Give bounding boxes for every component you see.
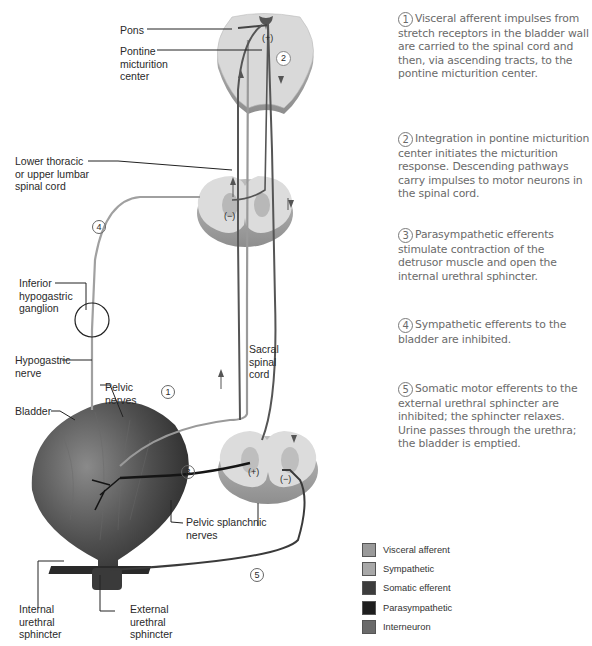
legend-item-parasympathetic: Parasympathetic — [362, 598, 452, 617]
circle-marker-4: 4 — [92, 220, 106, 234]
step-number: 4 — [398, 318, 413, 333]
legend-item-interneuron: Interneuron — [362, 617, 452, 636]
step-4: 4Sympathetic efferents to the bladder ar… — [398, 318, 590, 346]
step-text: Somatic motor efferents to the external … — [398, 382, 577, 450]
step-number: 1 — [398, 12, 413, 27]
step-2: 2Integration in pontine micturition cent… — [398, 132, 590, 200]
sympathetic-nerve — [92, 197, 200, 410]
step-text: Parasympathetic efferents stimulate cont… — [398, 228, 557, 283]
marker-minus-sacral: (−) — [280, 473, 291, 486]
step-1: 1Visceral afferent impulses from stretch… — [398, 12, 590, 80]
step-number: 3 — [398, 228, 413, 243]
circle-marker-1: 1 — [161, 385, 175, 399]
marker-minus-thoracic: (−) — [224, 210, 235, 223]
marker-plus-pons: (+) — [262, 32, 273, 45]
label-bladder: Bladder — [15, 405, 51, 418]
legend-item-sympathetic: Sympathetic — [362, 559, 452, 578]
visceral-afferent-pathway — [120, 40, 248, 466]
label-pelvic-splanchnic-nerves: Pelvic splanchnic nerves — [186, 516, 267, 541]
swatch-icon — [362, 562, 376, 576]
step-text: Sympathetic efferents to the bladder are… — [398, 318, 566, 346]
label-external-urethral-sphincter: External urethral sphincter — [130, 603, 173, 641]
swatch-icon — [362, 601, 376, 615]
label-pons: Pons — [120, 24, 144, 37]
legend: Visceral afferent Sympathetic Somatic ef… — [362, 540, 452, 636]
circle-marker-2: 2 — [276, 51, 291, 66]
label-inferior-hypogastric-ganglion: Inferior hypogastric ganglion — [19, 277, 73, 315]
swatch-icon — [362, 620, 376, 634]
bladder — [32, 401, 189, 590]
label-pontine-center: Pontine micturition center — [120, 45, 168, 83]
label-hypogastric-nerve: Hypogastric nerve — [15, 354, 70, 379]
step-3: 3Parasympathetic efferents stimulate con… — [398, 228, 590, 283]
label-pelvic-nerves: Pelvic nerves — [105, 381, 137, 406]
circle-marker-3: 3 — [181, 465, 195, 479]
legend-item-somatic-efferent: Somatic efferent — [362, 579, 452, 598]
direction-arrows — [218, 70, 297, 443]
swatch-icon — [362, 581, 376, 595]
step-number: 2 — [398, 132, 413, 147]
step-text: Visceral afferent impulses from stretch … — [398, 12, 589, 80]
label-internal-urethral-sphincter: Internal urethral sphincter — [19, 603, 62, 641]
label-sacral-cord: Sacral spinal cord — [249, 343, 279, 381]
label-lower-thoracic: Lower thoracic or upper lumbar spinal co… — [15, 155, 89, 193]
circle-marker-5: 5 — [250, 568, 264, 582]
step-5: 5Somatic motor efferents to the external… — [398, 382, 590, 450]
step-number: 5 — [398, 382, 413, 397]
legend-item-visceral-afferent: Visceral afferent — [362, 540, 452, 559]
lower-thoracic-cord-section — [197, 176, 293, 247]
step-text: Integration in pontine micturition cente… — [398, 132, 589, 200]
swatch-icon — [362, 543, 376, 557]
marker-plus-sacral: (+) — [248, 466, 259, 479]
